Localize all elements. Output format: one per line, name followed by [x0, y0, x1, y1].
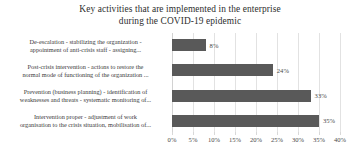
category-label-line: organisation to the crisis situation, mo… [4, 121, 167, 129]
bar[interactable] [172, 90, 311, 102]
bar-value-label: 33% [315, 91, 327, 100]
bar-track: 24% [172, 58, 340, 83]
category-label: Intervention proper - adjustment of work… [4, 113, 167, 129]
x-tick-label: 5% [189, 135, 198, 144]
bar-row: Post-crisis intervention - actions to re… [0, 58, 360, 83]
category-label: Prevention (business planning) - identif… [4, 88, 167, 104]
category-label-line: Post-crisis intervention - actions to re… [4, 63, 167, 71]
category-label-line: Intervention proper - adjustment of work [4, 113, 167, 121]
bar-track: 8% [172, 33, 340, 58]
bar-chart-figure: Key activities that are implemented in t… [0, 0, 360, 155]
chart-title: Key activities that are implemented in t… [30, 3, 330, 27]
bar-track: 35% [172, 109, 340, 134]
x-tick-label: 35% [313, 135, 325, 144]
bar[interactable] [172, 64, 273, 76]
bar-value-label: 8% [210, 41, 219, 50]
bar-row: De-escalation - stabilizing the organiza… [0, 33, 360, 58]
bar-value-label: 24% [277, 66, 289, 75]
category-label: Post-crisis intervention - actions to re… [4, 63, 167, 79]
category-label-line: Prevention (business planning) - identif… [4, 88, 167, 96]
chart-title-line-2: during the COVID-19 epidemic [30, 15, 330, 27]
bar-row: Prevention (business planning) - identif… [0, 84, 360, 109]
bar-row: Intervention proper - adjustment of work… [0, 109, 360, 134]
bar-track: 33% [172, 84, 340, 109]
category-label-line: De-escalation - stabilizing the organiza… [4, 38, 167, 46]
bar-value-label: 35% [323, 116, 335, 125]
chart-title-line-1: Key activities that are implemented in t… [30, 3, 330, 15]
x-tick-label: 10% [208, 135, 220, 144]
x-tick-label: 25% [271, 135, 283, 144]
category-label-line: normal mode of functioning of the organi… [4, 71, 167, 79]
bar-rows: De-escalation - stabilizing the organiza… [0, 33, 360, 134]
bar[interactable] [172, 115, 319, 127]
x-tick-label: 15% [229, 135, 241, 144]
x-tick-label: 40% [334, 135, 346, 144]
x-tick-label: 20% [250, 135, 262, 144]
x-axis: 0%5%10%15%20%25%30%35%40% [172, 135, 340, 149]
plot-area: De-escalation - stabilizing the organiza… [0, 33, 360, 134]
x-tick-label: 0% [168, 135, 177, 144]
bar[interactable] [172, 39, 206, 51]
x-tick-label: 30% [292, 135, 304, 144]
category-label-line: appointment of anti-crisis staff - assig… [4, 46, 167, 54]
category-label-line: weaknesses and threats - systematic moni… [4, 96, 167, 104]
category-label: De-escalation - stabilizing the organiza… [4, 38, 167, 54]
